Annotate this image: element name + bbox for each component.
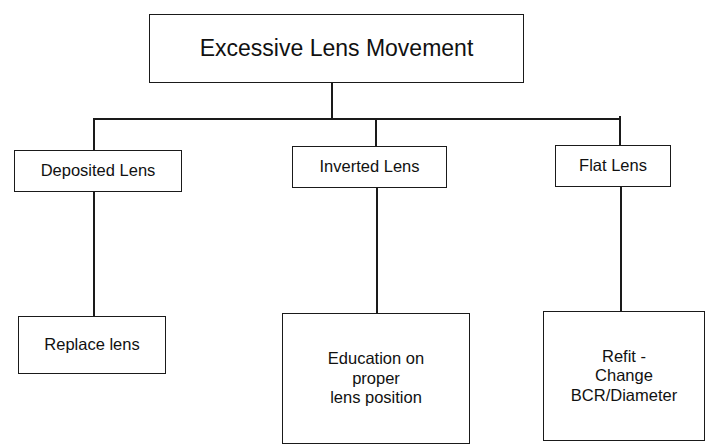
inverted-to-education-connector xyxy=(376,188,378,313)
remedy-node-replace-lens: Replace lens xyxy=(18,316,166,374)
cause-node-deposited-lens: Deposited Lens xyxy=(14,150,182,192)
remedy-node-refit: Refit - Change BCR/Diameter xyxy=(543,311,705,441)
flat-to-refit-connector xyxy=(620,187,622,311)
deposited-drop-connector xyxy=(93,118,95,150)
deposited-to-replace-connector xyxy=(93,192,95,316)
root-stem-connector xyxy=(331,83,333,119)
root-node-excessive-lens-movement: Excessive Lens Movement xyxy=(149,14,524,83)
flat-drop-connector xyxy=(619,116,621,145)
cause-node-flat-lens: Flat Lens xyxy=(555,145,671,187)
branch-bar-connector xyxy=(93,118,621,120)
remedy-node-education: Education on proper lens position xyxy=(282,313,470,444)
inverted-drop-connector xyxy=(375,118,377,146)
cause-node-inverted-lens: Inverted Lens xyxy=(292,146,447,188)
